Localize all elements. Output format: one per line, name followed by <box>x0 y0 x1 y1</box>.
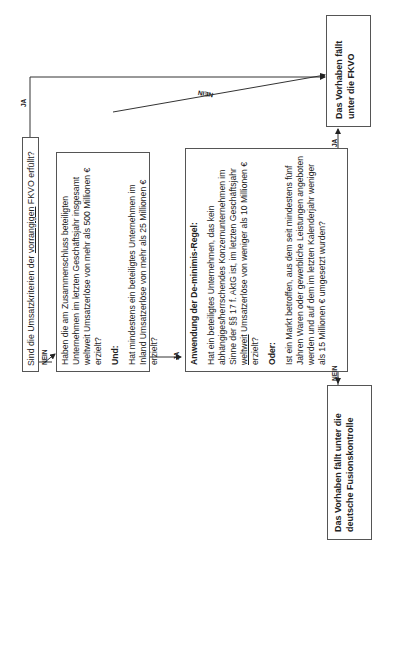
label-q1-ja: JA <box>20 99 27 107</box>
question-turnover-thresholds: Haben die am Zusammenschluss beteiligten… <box>56 152 150 372</box>
box2-paragraph-domestic: Hat mindestens ein beteiligtes Unternehm… <box>127 159 160 365</box>
arrow-box2-nein-to-fkvo <box>113 75 325 112</box>
result-fkvo-text: Das Vorhaben fällt unter die FKVO <box>334 41 356 119</box>
box2-connector-und: Und: <box>110 159 121 365</box>
question-de-minimis-rule: Anwendung der De-minimis-Regel: Hat ein … <box>185 148 348 372</box>
result-german-text: Das Vorhaben fällt unter die deutsche Fu… <box>333 413 355 532</box>
q1-text-underlined: vorrangigen <box>26 207 36 253</box>
box2-paragraph-worldwide: Haben die am Zusammenschluss beteiligten… <box>60 159 104 365</box>
label-q1-nein: NEIN <box>41 349 48 365</box>
flowchart: Sind die Umsatzkriterien der vorrangigen… <box>0 0 394 647</box>
q1-text-suffix: FKVO erfüllt? <box>26 151 36 206</box>
label-box3-ja: JA <box>331 139 338 147</box>
box3-paragraph-small-company: Hat ein beteiligtes Unternehmen, das kei… <box>206 155 261 365</box>
box3-heading: Anwendung der De-minimis-Regel: <box>189 155 200 365</box>
box3-para1-a: Hat ein beteiligtes Unternehmen, das kei… <box>206 168 238 365</box>
result-german-merger-control: Das Vorhaben fällt unter die deutsche Fu… <box>327 385 372 540</box>
box3-paragraph-bagatelle-market: Ist ein Markt betroffen, aus dem seit mi… <box>284 155 328 365</box>
label-box2-ja: JA <box>173 352 180 360</box>
label-box3-nein: NEIN <box>331 365 338 381</box>
box3-connector-oder: Oder: <box>267 155 278 365</box>
box3-para1-underlined: weltweit <box>239 334 249 365</box>
question-fkvo-criteria: Sind die Umsatzkriterien der vorrangigen… <box>22 137 39 372</box>
q1-text-prefix: Sind die Umsatzkriterien der <box>26 253 36 366</box>
result-fkvo: Das Vorhaben fällt unter die FKVO <box>326 15 371 127</box>
